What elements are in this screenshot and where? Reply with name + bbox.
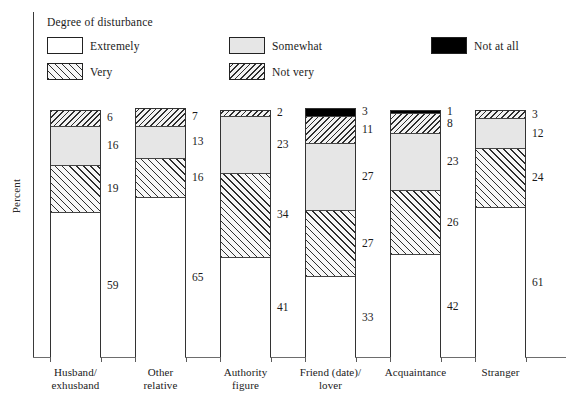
bar-column[interactable]: 6161959 bbox=[50, 110, 101, 357]
bar-segment-value: 16 bbox=[107, 140, 119, 152]
x-axis-tick bbox=[50, 357, 51, 362]
bar-segment[interactable]: 6 bbox=[51, 111, 100, 126]
bar-segment[interactable]: 61 bbox=[476, 207, 525, 358]
swatch-notvery bbox=[229, 63, 265, 80]
bar-segment[interactable]: 65 bbox=[136, 197, 185, 358]
x-axis-tick bbox=[475, 357, 476, 362]
bar-segment-value: 3 bbox=[532, 109, 538, 121]
bar-segment-value: 2 bbox=[277, 108, 283, 120]
bar-segment-value: 42 bbox=[447, 301, 459, 313]
bar-segment-value: 23 bbox=[447, 156, 459, 168]
bar-segment[interactable]: 27 bbox=[306, 210, 355, 277]
bar-column[interactable]: 18232642 bbox=[390, 110, 441, 357]
bar-segment-value: 59 bbox=[107, 280, 119, 292]
legend-item-label: Extremely bbox=[90, 40, 140, 52]
bar-segment-value: 24 bbox=[532, 172, 544, 184]
bar-segment[interactable]: 3 bbox=[306, 109, 355, 116]
bar-segment-value: 41 bbox=[277, 302, 289, 314]
legend-items: ExtremelyVerySomewhatNot veryNot at all bbox=[47, 37, 567, 89]
bar-segment-value: 23 bbox=[277, 139, 289, 151]
bar-segment-value: 34 bbox=[277, 209, 289, 221]
legend-item[interactable]: Extremely bbox=[47, 37, 140, 54]
bar-segment[interactable]: 33 bbox=[306, 276, 355, 358]
swatch-notatall bbox=[431, 37, 467, 54]
category-label-line: lover bbox=[276, 379, 386, 392]
bar-segment[interactable]: 7 bbox=[136, 109, 185, 126]
bar-segment[interactable]: 34 bbox=[221, 173, 270, 257]
chart-legend: Degree of disturbance ExtremelyVerySomew… bbox=[47, 16, 567, 89]
bar-segment[interactable]: 26 bbox=[391, 190, 440, 254]
bar-segment-value: 13 bbox=[192, 137, 204, 149]
bar-segment-value: 6 bbox=[107, 113, 113, 125]
y-axis-title: Percent bbox=[10, 161, 22, 231]
bar-segment[interactable]: 11 bbox=[306, 116, 355, 143]
legend-item-label: Not at all bbox=[474, 40, 519, 52]
bar-segment[interactable]: 16 bbox=[51, 126, 100, 166]
bar-segment-value: 3 bbox=[362, 106, 368, 118]
bar-segment[interactable]: 23 bbox=[391, 133, 440, 190]
bar-column[interactable]: 311272733 bbox=[305, 108, 356, 357]
bar-column[interactable]: 2233441 bbox=[220, 110, 271, 357]
bar-segment-value: 11 bbox=[362, 124, 373, 136]
x-axis-category-label: Stranger bbox=[446, 366, 556, 379]
bar-segment-value: 19 bbox=[107, 184, 119, 196]
stacked-bar-chart: Degree of disturbance ExtremelyVerySomew… bbox=[0, 0, 576, 406]
x-axis-tick bbox=[186, 357, 187, 362]
bar-segment[interactable]: 13 bbox=[136, 126, 185, 158]
legend-item[interactable]: Not very bbox=[229, 63, 314, 80]
bar-column[interactable]: 3122461 bbox=[475, 110, 526, 357]
bar-segment-value: 8 bbox=[447, 118, 453, 130]
bar-segment-value: 65 bbox=[192, 272, 204, 284]
x-axis-tick bbox=[390, 357, 391, 362]
bar-segment[interactable]: 16 bbox=[136, 158, 185, 198]
bar-segment-value: 61 bbox=[532, 277, 544, 289]
bar-column[interactable]: 7131665 bbox=[135, 108, 186, 357]
legend-item[interactable]: Not at all bbox=[431, 37, 519, 54]
x-axis-tick bbox=[271, 357, 272, 362]
y-axis-line bbox=[33, 12, 34, 358]
swatch-very bbox=[47, 63, 83, 80]
bar-segment-value: 27 bbox=[362, 238, 374, 250]
category-label-line: Stranger bbox=[446, 366, 556, 379]
bar-segment-value: 16 bbox=[192, 172, 204, 184]
bar-segment-value: 33 bbox=[362, 312, 374, 324]
bar-segment-value: 12 bbox=[532, 128, 544, 140]
bar-segment-value: 7 bbox=[192, 111, 198, 123]
bar-segment-value: 27 bbox=[362, 171, 374, 183]
x-axis-tick bbox=[305, 357, 306, 362]
bar-segment[interactable]: 59 bbox=[51, 212, 100, 358]
swatch-somewhat bbox=[229, 37, 265, 54]
x-axis-tick bbox=[135, 357, 136, 362]
legend-item-label: Somewhat bbox=[272, 40, 322, 52]
bar-segment-value: 26 bbox=[447, 217, 459, 229]
bar-segment[interactable]: 42 bbox=[391, 254, 440, 358]
bar-segment[interactable]: 24 bbox=[476, 148, 525, 207]
bar-segment[interactable]: 3 bbox=[476, 111, 525, 118]
x-axis-tick bbox=[441, 357, 442, 362]
swatch-extremely bbox=[47, 37, 83, 54]
legend-item[interactable]: Somewhat bbox=[229, 37, 322, 54]
x-axis-tick bbox=[220, 357, 221, 362]
legend-item-label: Not very bbox=[272, 66, 314, 78]
bar-segment[interactable]: 12 bbox=[476, 118, 525, 148]
bar-segment[interactable]: 8 bbox=[391, 113, 440, 133]
legend-item-label: Very bbox=[90, 66, 113, 78]
bar-segment[interactable]: 23 bbox=[221, 116, 270, 173]
bar-segment[interactable]: 27 bbox=[306, 143, 355, 210]
x-axis-tick bbox=[356, 357, 357, 362]
x-axis-tick bbox=[526, 357, 527, 362]
x-axis-tick bbox=[101, 357, 102, 362]
bar-segment[interactable]: 19 bbox=[51, 165, 100, 212]
legend-title: Degree of disturbance bbox=[47, 16, 567, 28]
bar-segment[interactable]: 41 bbox=[221, 257, 270, 358]
legend-item[interactable]: Very bbox=[47, 63, 113, 80]
